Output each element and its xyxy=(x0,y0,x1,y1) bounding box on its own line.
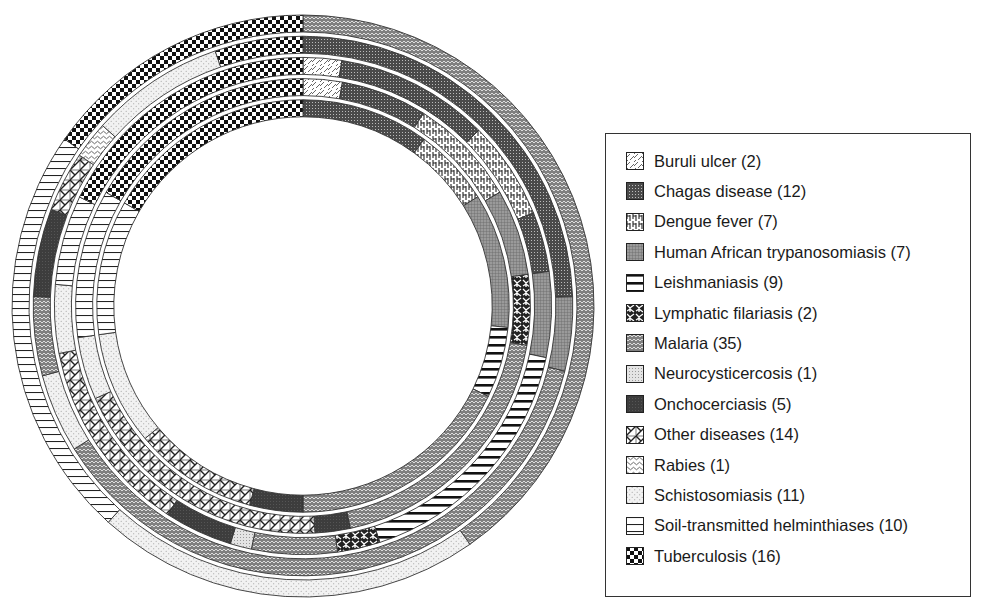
legend-swatch-buruli xyxy=(626,152,644,170)
legend-label-lymph: Lymphatic filariasis (2) xyxy=(654,304,818,323)
ring-4-segment-buruli xyxy=(303,79,342,99)
ring-3-segment-schisto xyxy=(54,284,75,353)
ring-3-segment-malaria xyxy=(251,533,337,555)
legend-item-malaria: Malaria (35) xyxy=(606,328,742,358)
legend-swatch-other xyxy=(626,426,644,444)
legend-item-neuro: Neurocysticercosis (1) xyxy=(606,359,817,389)
legend-label-tb: Tuberculosis (16) xyxy=(654,547,781,566)
legend-swatch-schisto xyxy=(626,486,644,504)
ring-4-segment-lymph xyxy=(510,274,530,345)
ring-4-segment-oncho xyxy=(314,512,350,533)
legend-swatch-dengue xyxy=(626,213,644,231)
legend-swatch-rabies xyxy=(626,456,644,474)
legend-label-other: Other diseases (14) xyxy=(654,425,799,444)
legend-label-chagas: Chagas disease (12) xyxy=(654,182,806,201)
legend-label-malaria: Malaria (35) xyxy=(654,334,742,353)
legend-swatch-soil xyxy=(626,517,644,535)
legend-label-neuro: Neurocysticercosis (1) xyxy=(654,364,817,383)
legend-item-oncho: Onchocerciasis (5) xyxy=(606,389,792,419)
legend-item-schisto: Schistosomiasis (11) xyxy=(606,480,805,510)
ring-3-segment-hat xyxy=(530,271,552,357)
legend: Buruli ulcer (2)Chagas disease (12)Dengu… xyxy=(605,133,971,597)
ring-5-segment-oncho xyxy=(250,489,303,512)
ring-3-segment-buruli xyxy=(303,57,342,77)
legend-label-buruli: Buruli ulcer (2) xyxy=(654,152,761,171)
legend-item-other: Other diseases (14) xyxy=(606,420,799,450)
legend-swatch-leish xyxy=(626,274,644,292)
legend-swatch-chagas xyxy=(626,182,644,200)
legend-swatch-malaria xyxy=(626,334,644,352)
legend-label-oncho: Onchocerciasis (5) xyxy=(654,395,792,414)
legend-item-rabies: Rabies (1) xyxy=(606,450,730,480)
legend-swatch-lymph xyxy=(626,304,644,322)
legend-swatch-tb xyxy=(626,547,644,565)
rings-group xyxy=(12,15,594,597)
legend-label-soil: Soil-transmitted helminthiases (10) xyxy=(654,516,908,535)
legend-label-rabies: Rabies (1) xyxy=(654,456,730,475)
legend-item-soil: Soil-transmitted helminthiases (10) xyxy=(606,511,908,541)
legend-item-leish: Leishmaniasis (9) xyxy=(606,268,783,298)
legend-item-hat: Human African trypanosomiasis (7) xyxy=(606,237,911,267)
legend-swatch-neuro xyxy=(626,365,644,383)
legend-item-lymph: Lymphatic filariasis (2) xyxy=(606,298,818,328)
legend-label-leish: Leishmaniasis (9) xyxy=(654,273,783,292)
legend-label-hat: Human African trypanosomiasis (7) xyxy=(654,243,911,262)
legend-item-tb: Tuberculosis (16) xyxy=(606,541,781,571)
legend-item-chagas: Chagas disease (12) xyxy=(606,176,806,206)
legend-swatch-oncho xyxy=(626,395,644,413)
legend-item-buruli: Buruli ulcer (2) xyxy=(606,146,761,176)
legend-item-dengue: Dengue fever (7) xyxy=(606,207,778,237)
legend-label-schisto: Schistosomiasis (11) xyxy=(654,486,805,505)
legend-label-dengue: Dengue fever (7) xyxy=(654,212,778,231)
legend-swatch-hat xyxy=(626,243,644,261)
